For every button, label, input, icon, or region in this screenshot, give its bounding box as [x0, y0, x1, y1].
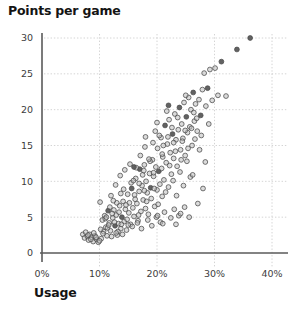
- scatter-point: [146, 212, 151, 217]
- scatter-point: [200, 87, 205, 92]
- scatter-point: [126, 210, 131, 215]
- scatter-point: [97, 238, 102, 243]
- scatter-point: [109, 193, 114, 198]
- scatter-point: [203, 104, 208, 109]
- scatter-point: [137, 189, 142, 194]
- scatter-point: [144, 199, 149, 204]
- scatter-point: [171, 178, 176, 183]
- scatter-point: [172, 207, 177, 212]
- scatter-point: [173, 149, 178, 154]
- scatter-point: [190, 172, 195, 177]
- scatter-point: [219, 59, 224, 64]
- scatter-point: [129, 186, 134, 191]
- scatter-point: [183, 93, 188, 98]
- scatter-point: [160, 152, 165, 157]
- scatter-point: [106, 223, 111, 228]
- scatter-point: [124, 203, 129, 208]
- scatter-point: [114, 231, 119, 236]
- scatter-point: [170, 125, 175, 130]
- scatter-point: [182, 100, 187, 105]
- scatter-point: [88, 237, 93, 242]
- scatter-point: [151, 170, 156, 175]
- scatter-point: [170, 132, 175, 137]
- y-tick-label: 20: [21, 104, 33, 115]
- scatter-point: [179, 157, 184, 162]
- scatter-point: [104, 215, 109, 220]
- scatter-point: [145, 218, 150, 223]
- scatter-point: [184, 114, 189, 119]
- scatter-point: [130, 224, 135, 229]
- y-tick-label: 25: [21, 68, 33, 79]
- scatter-point: [110, 211, 115, 216]
- scatter-point: [171, 140, 176, 145]
- scatter-point: [109, 234, 114, 239]
- scatter-point: [144, 179, 149, 184]
- scatter-point: [191, 110, 196, 115]
- scatter-point: [168, 215, 173, 220]
- scatter-point: [107, 205, 112, 210]
- scatter-point: [186, 146, 191, 151]
- scatter-point: [121, 187, 126, 192]
- scatter-point: [118, 173, 123, 178]
- scatter-point: [143, 145, 148, 150]
- scatter-point: [166, 185, 171, 190]
- scatter-point: [142, 162, 147, 167]
- y-axis-tick-labels: 051015202530: [21, 32, 33, 258]
- scatter-point: [199, 133, 204, 138]
- scatter-point: [125, 192, 130, 197]
- scatter-point: [112, 220, 117, 225]
- scatter-point: [164, 109, 169, 114]
- scatter-point: [162, 178, 167, 183]
- scatter-point: [143, 135, 148, 140]
- y-tick-label: 0: [27, 247, 33, 258]
- scatter-point: [181, 183, 186, 188]
- scatter-point: [168, 150, 173, 155]
- scatter-point: [224, 94, 229, 99]
- scatter-point: [248, 36, 253, 41]
- scatter-point: [183, 128, 188, 133]
- scatter-point: [216, 93, 221, 98]
- scatter-point: [178, 170, 183, 175]
- scatter-point: [197, 97, 202, 102]
- scatter-point: [235, 47, 240, 52]
- scatter-point: [124, 228, 129, 233]
- scatter-point: [125, 217, 130, 222]
- scatter-point: [175, 115, 180, 120]
- scatter-point: [111, 198, 116, 203]
- scatter-point: [141, 168, 146, 173]
- x-tick-label: 0%: [34, 268, 49, 279]
- scatter-point: [174, 222, 179, 227]
- scatter-point: [153, 129, 158, 134]
- scatter-point: [205, 86, 210, 91]
- y-tick-label: 30: [21, 32, 33, 43]
- scatter-point: [167, 163, 172, 168]
- plot-area: 051015202530 0%10%20%30%40%: [0, 0, 293, 310]
- scatter-point: [163, 190, 168, 195]
- x-tick-label: 10%: [89, 268, 110, 279]
- scatter-point: [149, 196, 154, 201]
- scatter-point: [193, 102, 198, 107]
- scatter-point: [139, 226, 144, 231]
- scatter-point: [169, 172, 174, 177]
- scatter-point: [201, 186, 206, 191]
- scatter-point: [113, 183, 118, 188]
- scatter-point: [159, 166, 164, 171]
- y-tick-label: 15: [21, 140, 33, 151]
- scatter-point: [120, 232, 125, 237]
- scatter-point: [131, 178, 136, 183]
- scatter-point: [86, 233, 91, 238]
- data-points: [80, 36, 252, 245]
- scatter-point: [197, 147, 202, 152]
- scatter-point: [130, 205, 135, 210]
- vertical-gridlines: [100, 34, 273, 268]
- scatter-point: [98, 200, 103, 205]
- scatter-point: [206, 122, 211, 127]
- scatter-point: [160, 194, 165, 199]
- scatter-point: [213, 66, 218, 71]
- scatter-point: [185, 159, 190, 164]
- scatter-point: [179, 122, 184, 127]
- scatter-point: [161, 143, 166, 148]
- scatter-point: [194, 116, 199, 121]
- scatter-point: [122, 167, 127, 172]
- x-tick-label: 30%: [204, 268, 225, 279]
